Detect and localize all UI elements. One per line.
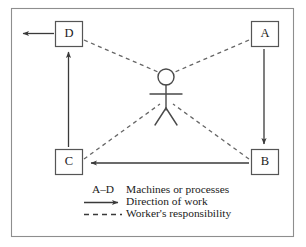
legend-label-machines: Machines or processes — [126, 183, 230, 195]
worker-leg-right — [166, 108, 177, 125]
legend-label-direction: Direction of work — [126, 195, 208, 207]
worker-head-icon — [158, 69, 174, 85]
node-a[interactable]: A — [252, 22, 279, 47]
node-d[interactable]: D — [56, 22, 83, 47]
node-b[interactable]: B — [252, 150, 279, 175]
link-worker-to-b — [173, 104, 249, 159]
node-c[interactable]: C — [56, 150, 83, 175]
node-a-label: A — [260, 26, 269, 40]
node-d-label: D — [64, 26, 73, 40]
diagram-figure: D A C B A–D Machines or processes Direct… — [0, 0, 306, 247]
link-worker-to-c — [84, 104, 160, 159]
link-worker-to-d — [84, 40, 158, 72]
legend: A–D Machines or processes Direction of w… — [84, 183, 232, 219]
legend-key-range: A–D — [92, 183, 114, 195]
worker-stick-figure — [150, 69, 182, 125]
legend-row-direction: Direction of work — [84, 195, 208, 207]
legend-label-responsibility: Worker's responsibility — [126, 207, 232, 219]
link-worker-to-a — [175, 40, 249, 72]
legend-row-responsibility: Worker's responsibility — [84, 207, 232, 219]
legend-row-machines: A–D Machines or processes — [92, 183, 230, 195]
process-flow-diagram: D A C B A–D Machines or processes Direct… — [0, 0, 306, 247]
node-b-label: B — [261, 154, 269, 168]
node-c-label: C — [65, 154, 73, 168]
worker-leg-left — [155, 108, 166, 125]
